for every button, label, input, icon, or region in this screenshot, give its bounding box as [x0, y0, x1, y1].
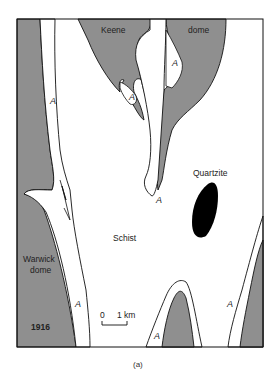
label-dome: dome — [188, 25, 210, 35]
label-year: 1916 — [31, 322, 50, 332]
label-a: A — [74, 299, 81, 309]
label-a: A — [153, 331, 160, 341]
geologic-map: Keene dome Quartzite Schist Warwick dome… — [0, 0, 278, 378]
label-warwick: Warwick — [23, 254, 56, 264]
label-warwick-dome: dome — [30, 265, 52, 275]
label-schist: Schist — [113, 233, 137, 243]
label-keene: Keene — [101, 25, 126, 35]
label-a: A — [155, 195, 162, 205]
figure-caption: (a) — [133, 360, 143, 369]
label-a: A — [226, 299, 233, 309]
label-a: A — [171, 58, 178, 68]
label-quartzite: Quartzite — [193, 168, 228, 178]
scale-end: 1 km — [117, 310, 135, 320]
scale-start: 0 — [100, 310, 105, 320]
label-a: A — [128, 92, 135, 102]
label-a: A — [49, 96, 56, 106]
